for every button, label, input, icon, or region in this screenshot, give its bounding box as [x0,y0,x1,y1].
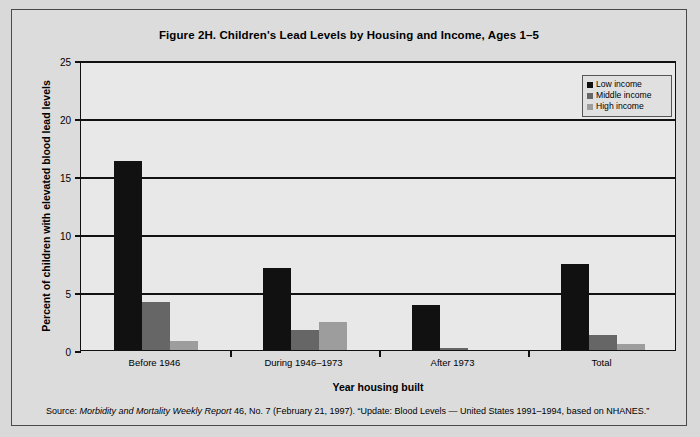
x-category-label: Total [591,357,611,368]
bar-low [263,268,291,350]
y-tick-label: 10 [60,231,71,242]
legend-label: Low income [596,79,642,90]
legend-label: Middle income [596,90,651,101]
legend-item: Middle income [587,90,667,101]
x-category-label: After 1973 [431,357,475,368]
y-tick-label: 20 [60,115,71,126]
source-suffix: 46, No. 7 (February 21, 1997). “Update: … [231,406,649,416]
chart-legend: Low incomeMiddle incomeHigh income [582,75,672,117]
bar-middle [589,335,617,350]
bar-middle [291,330,319,350]
y-tick-label: 15 [60,173,71,184]
source-publication: Morbidity and Mortality Weekly Report [80,406,232,416]
y-tick-label: 0 [65,347,71,358]
legend-swatch-icon [587,93,593,99]
y-axis-title: Percent of children with elevated blood … [38,61,54,351]
y-tick-label: 25 [60,57,71,68]
source-prefix: Source: [46,406,80,416]
figure-frame: Figure 2H. Children's Lead Levels by Hou… [11,9,687,426]
bar-high [617,344,645,350]
y-tick-label: 5 [65,289,71,300]
legend-item: High income [587,101,667,112]
x-axis-title: Year housing built [80,381,676,393]
chart-title: Figure 2H. Children's Lead Levels by Hou… [12,29,686,41]
legend-label: High income [596,101,644,112]
x-tick-mark [379,350,381,357]
bar-high [170,341,198,350]
source-note: Source: Morbidity and Mortality Weekly R… [46,406,666,416]
legend-swatch-icon [587,104,593,110]
x-tick-mark [528,350,530,357]
y-tick-mark [75,351,81,353]
bar-group [263,62,347,350]
legend-swatch-icon [587,82,593,88]
bar-group [114,62,198,350]
y-axis-title-text: Percent of children with elevated blood … [40,80,52,332]
bar-low [561,264,589,350]
bar-high [319,322,347,350]
x-category-label: During 1946–1973 [264,357,342,368]
bar-middle [142,302,170,350]
legend-item: Low income [587,79,667,90]
bar-middle [440,348,468,350]
bar-low [114,161,142,350]
bar-low [412,305,440,350]
x-category-label: Before 1946 [129,357,181,368]
x-tick-mark [230,350,232,357]
bar-group [412,62,496,350]
